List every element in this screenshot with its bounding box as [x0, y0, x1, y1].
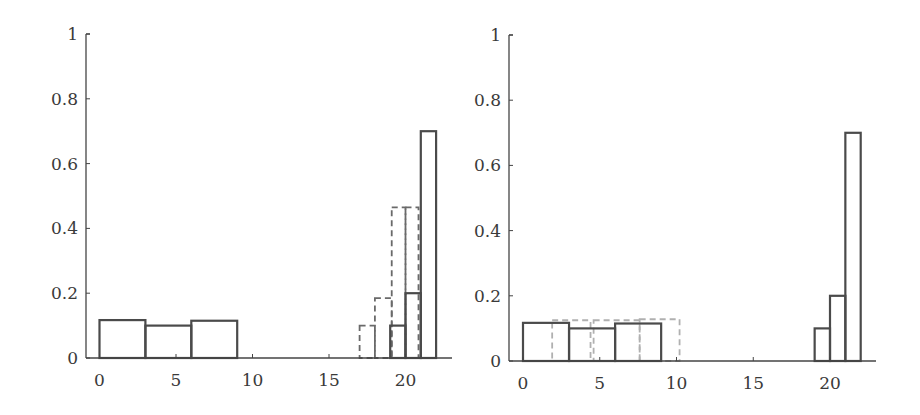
histogram-figure: 00.20.40.60.8105101520 00.20.40.60.81051… [0, 0, 920, 415]
dashed-histogram-bar [406, 207, 419, 358]
solid-histogram-bar [815, 328, 830, 361]
solid-histogram-bar [191, 321, 237, 358]
x-tick-label: 5 [171, 370, 182, 390]
dashed-histogram-bar [392, 207, 406, 358]
y-tick-label: 0.4 [51, 218, 78, 238]
y-tick-label: 0 [67, 348, 78, 368]
y-tick-label: 0.6 [51, 154, 78, 174]
solid-histogram-bar [145, 326, 191, 358]
solid-histogram-bar [523, 323, 569, 361]
solid-histogram-bar [615, 324, 661, 361]
x-tick-label: 15 [318, 370, 340, 390]
dashed-histogram-bar [552, 320, 590, 361]
x-tick-label: 0 [94, 370, 105, 390]
y-tick-label: 1 [67, 24, 78, 44]
y-tick-label: 0.8 [474, 90, 501, 110]
y-tick-label: 0.2 [51, 283, 78, 303]
solid-histogram-bar [845, 133, 860, 361]
solid-histogram-bar [100, 320, 146, 358]
x-tick-label: 20 [395, 370, 417, 390]
x-tick-label: 15 [742, 373, 764, 393]
x-tick-label: 10 [666, 373, 688, 393]
left-histogram-panel: 00.20.40.60.8105101520 [51, 24, 452, 390]
y-tick-label: 0.2 [474, 286, 501, 306]
dashed-histogram-bar [360, 326, 375, 358]
y-tick-label: 0 [490, 351, 501, 371]
solid-histogram-bar [421, 131, 436, 358]
y-tick-label: 0.6 [474, 155, 501, 175]
y-tick-label: 0.4 [474, 221, 501, 241]
solid-histogram-bar [830, 296, 845, 361]
x-tick-label: 10 [242, 370, 264, 390]
dashed-histogram-bar [640, 319, 680, 361]
solid-histogram-bar [569, 328, 615, 361]
x-tick-label: 0 [518, 373, 529, 393]
y-tick-label: 0.8 [51, 89, 78, 109]
right-histogram-panel: 00.20.40.60.8105101520 [474, 25, 876, 393]
x-tick-label: 5 [594, 373, 605, 393]
x-tick-label: 20 [819, 373, 841, 393]
y-tick-label: 1 [490, 25, 501, 45]
dashed-histogram-bar [594, 320, 640, 361]
